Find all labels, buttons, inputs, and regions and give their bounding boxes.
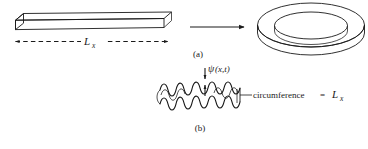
length-label-subscript: x xyxy=(91,41,96,50)
length-label-base: L xyxy=(83,35,90,47)
psi-arguments: (x,t) xyxy=(215,64,230,74)
panel-a-bar-group xyxy=(16,12,172,30)
panel-a-ring-group xyxy=(258,3,365,55)
bar-right-edge xyxy=(164,12,172,28)
bar-front-face xyxy=(16,19,165,30)
wave-top-rim xyxy=(160,82,240,96)
wave-front-rim xyxy=(160,96,240,110)
ring-outer-top-ellipse xyxy=(258,3,365,47)
ring-inner-hole-bottom-arc xyxy=(275,31,348,45)
psi-symbol: ψ xyxy=(208,63,215,74)
bar-length-label-group: L x xyxy=(81,33,105,50)
psi-label-group: ψ (x,t) xyxy=(208,63,230,74)
figure-root: L x (a) xyxy=(0,0,368,149)
circumference-label-group: circumference = L x xyxy=(253,88,344,103)
panel-b-wave-group xyxy=(157,82,240,110)
panel-a-caption: (a) xyxy=(193,49,203,59)
wave-left-edge xyxy=(157,90,160,104)
physics-figure-canvas: L x (a) xyxy=(0,0,368,149)
ring-inner-top-ellipse xyxy=(275,12,348,39)
circumference-value-base: L xyxy=(331,88,338,100)
panel-b-caption: (b) xyxy=(195,123,206,133)
circumference-text: circumference xyxy=(253,90,304,100)
circumference-value-subscript: x xyxy=(339,94,344,103)
circumference-equals: = xyxy=(320,90,325,100)
ring-outer-side-wall xyxy=(258,25,365,55)
bar-left-end-face xyxy=(16,14,24,30)
